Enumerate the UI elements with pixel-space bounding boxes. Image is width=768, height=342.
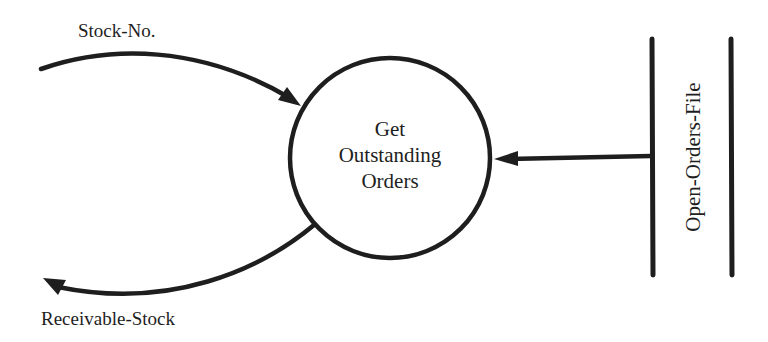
arrowhead-icon (278, 87, 301, 106)
arrowhead-icon (494, 151, 518, 166)
process-label-line-3: Orders (361, 169, 418, 193)
process-label-line-1: Get (375, 117, 405, 141)
flow-label-receivable-stock: Receivable-Stock (41, 308, 176, 329)
flow-open-orders (494, 151, 651, 166)
process-bubble: Get Outstanding Orders (290, 58, 490, 258)
process-label-line-2: Outstanding (339, 143, 442, 167)
data-flow-diagram: Get Outstanding Orders Stock-No. Receiva… (0, 0, 768, 342)
flow-label-stock-no: Stock-No. (78, 20, 156, 41)
data-store-open-orders-file: Open-Orders-File (652, 39, 732, 275)
flow-receivable-stock: Receivable-Stock (41, 225, 314, 329)
data-store-label: Open-Orders-File (681, 82, 705, 231)
flow-stock-no: Stock-No. (41, 20, 301, 106)
